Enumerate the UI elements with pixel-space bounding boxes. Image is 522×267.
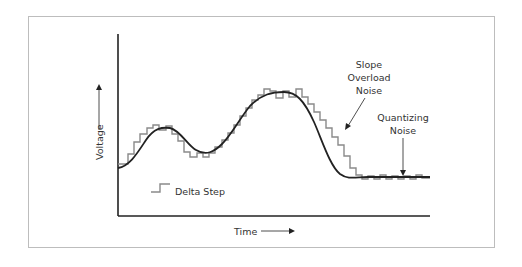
x-axis-label-group: Time — [233, 226, 295, 237]
arrow-right-icon — [289, 228, 295, 234]
slope-overload-line-1: Slope — [356, 59, 383, 70]
legend: Delta Step — [151, 184, 225, 197]
delta-modulation-diagram: Delta Step Voltage Time Slope Overload N… — [0, 0, 522, 267]
quantizing-line-1: Quantizing — [377, 112, 428, 123]
arrow-down-icon — [400, 170, 406, 176]
arrow-up-icon — [96, 84, 102, 90]
x-axis-label: Time — [233, 226, 257, 237]
y-axis-label: Voltage — [94, 124, 105, 160]
axes — [118, 34, 430, 216]
legend-label: Delta Step — [175, 186, 225, 197]
slope-overload-line-3: Noise — [356, 85, 383, 96]
arrow-pointer-icon — [345, 123, 351, 130]
y-axis-label-group: Voltage — [94, 84, 105, 160]
quantizing-line-2: Noise — [390, 125, 417, 136]
analog-signal — [118, 92, 430, 178]
delta-staircase — [118, 89, 430, 179]
quantizing-noise-annotation: Quantizing Noise — [377, 112, 428, 176]
slope-overload-line-2: Overload — [347, 72, 390, 83]
delta-step-icon — [151, 184, 170, 192]
